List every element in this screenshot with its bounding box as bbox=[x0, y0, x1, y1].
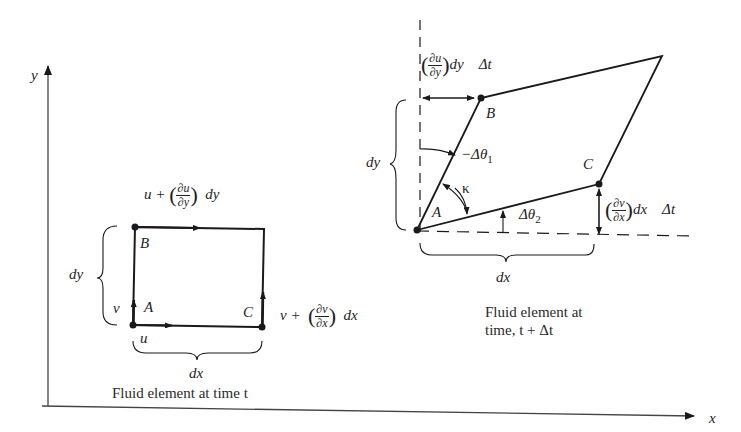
point-c-left: C bbox=[243, 305, 253, 320]
bottom-velocity-u: u bbox=[140, 331, 148, 346]
top-displacement-expression: (∂u∂y)dy Δt bbox=[421, 52, 492, 78]
caption-time-t: Fluid element at time t bbox=[112, 384, 248, 402]
left-fluid-element bbox=[97, 224, 266, 361]
dx-brace-right bbox=[420, 243, 594, 262]
right-velocity-expression: v + (∂v∂x) dx bbox=[280, 303, 358, 329]
dy-brace-right bbox=[390, 100, 406, 230]
angle-theta2-label: Δθ2 bbox=[519, 207, 541, 225]
height-label-right: dy bbox=[366, 155, 380, 170]
angle-theta1-label: −Δθ1 bbox=[461, 147, 493, 165]
dx-brace-left bbox=[133, 341, 262, 360]
top-velocity-expression: u + (∂u∂y) dy bbox=[144, 182, 219, 208]
caption-time-t-plus-dt: Fluid element at time, t + Δt bbox=[485, 303, 582, 339]
point-a-right: A bbox=[432, 205, 441, 220]
left-velocity-v: v bbox=[113, 301, 120, 316]
width-label-right: dx bbox=[496, 270, 510, 285]
point-c-right: C bbox=[583, 157, 593, 172]
point-a-left: A bbox=[144, 300, 153, 315]
height-label-left: dy bbox=[69, 267, 83, 282]
right-displacement-expression: (∂v∂x)dx Δt bbox=[605, 197, 675, 223]
x-axis bbox=[42, 406, 694, 416]
point-b-right: B bbox=[486, 106, 495, 121]
y-axis-label: y bbox=[31, 68, 38, 83]
x-axis-label: x bbox=[709, 411, 716, 426]
width-label-left: dx bbox=[189, 366, 203, 381]
point-b-left: B bbox=[140, 236, 149, 251]
kappa-label: κ bbox=[462, 181, 470, 196]
